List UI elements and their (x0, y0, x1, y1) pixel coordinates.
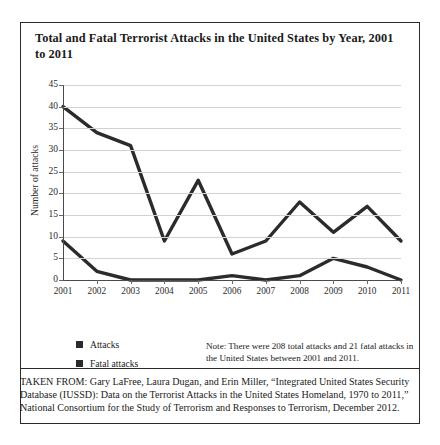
page-title: Total and Fatal Terrorist Attacks in the… (35, 31, 407, 62)
y-axis-line (63, 85, 64, 280)
y-axis-tick-label: 20 (49, 189, 59, 199)
x-axis-tick-mark (401, 280, 402, 284)
gridline (63, 193, 401, 194)
gridline (63, 172, 401, 173)
y-axis-tick-mark (59, 280, 63, 281)
x-axis-tick-mark (300, 280, 301, 284)
y-axis-tick-label: 0 (53, 275, 58, 285)
x-axis-tick-label: 2004 (155, 287, 174, 296)
y-axis-label: Number of attacks (29, 106, 40, 256)
gridline (63, 107, 401, 108)
gridline (63, 215, 401, 216)
legend-item-attacks: Attacks (76, 335, 196, 354)
x-axis-tick-mark (164, 280, 165, 284)
legend-swatch-icon (76, 341, 83, 348)
gridline (63, 128, 401, 129)
gridline (63, 258, 401, 259)
plot-region: 0510152025303540452001200220032004200520… (63, 85, 401, 280)
x-axis-tick-mark (333, 280, 334, 284)
x-axis-tick-mark (131, 280, 132, 284)
x-axis-tick-label: 2011 (392, 287, 410, 296)
gridline (63, 85, 401, 86)
x-axis-tick-label: 2010 (358, 287, 377, 296)
y-axis-tick-label: 40 (49, 102, 59, 112)
legend-swatch-icon (76, 360, 83, 367)
x-axis-tick-mark (198, 280, 199, 284)
y-axis-tick-label: 25 (49, 167, 59, 177)
y-axis-tick-label: 10 (49, 232, 59, 242)
series-lines (63, 85, 401, 280)
x-axis-tick-label: 2001 (54, 287, 73, 296)
gridline (63, 150, 401, 151)
chart-note: Note: There were 208 total attacks and 2… (206, 340, 421, 365)
source-citation: TAKEN FROM: Gary LaFree, Laura Dugan, an… (20, 368, 420, 415)
gridline (63, 237, 401, 238)
x-axis-tick-mark (97, 280, 98, 284)
x-axis-tick-label: 2006 (223, 287, 242, 296)
x-axis-tick-label: 2003 (121, 287, 140, 296)
x-axis-tick-mark (367, 280, 368, 284)
y-axis-tick-label: 15 (49, 210, 59, 220)
x-axis-tick-label: 2008 (290, 287, 309, 296)
y-axis-tick-label: 35 (49, 124, 59, 134)
chart-area: Number of attacks 0510152025303540452001… (21, 75, 421, 327)
x-axis-tick-label: 2009 (324, 287, 343, 296)
x-axis-tick-label: 2007 (257, 287, 276, 296)
y-axis-tick-label: 5 (53, 254, 58, 264)
line-fatal-attacks (63, 241, 401, 280)
y-axis-tick-label: 45 (49, 80, 59, 90)
x-axis-tick-label: 2002 (88, 287, 107, 296)
figure-container: Total and Fatal Terrorist Attacks in the… (20, 22, 420, 424)
x-axis-tick-mark (266, 280, 267, 284)
x-axis-tick-mark (232, 280, 233, 284)
x-axis-tick-label: 2005 (189, 287, 208, 296)
y-axis-tick-label: 30 (49, 145, 59, 155)
legend-label-attacks: Attacks (90, 335, 119, 354)
